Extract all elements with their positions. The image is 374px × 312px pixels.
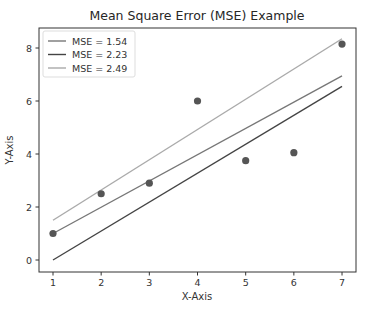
y-axis-ticks: 02468 xyxy=(26,43,39,266)
mse-chart: Mean Square Error (MSE) Example 1234567 … xyxy=(0,0,374,312)
data-point xyxy=(290,149,297,156)
legend-label: MSE = 2.49 xyxy=(72,63,127,74)
x-tick-label: 7 xyxy=(339,277,345,288)
y-tick-label: 8 xyxy=(26,43,32,54)
data-point xyxy=(242,157,249,164)
data-point xyxy=(194,97,201,104)
chart-title: Mean Square Error (MSE) Example xyxy=(89,8,304,23)
data-point xyxy=(98,190,105,197)
x-tick-label: 5 xyxy=(243,277,249,288)
x-tick-label: 6 xyxy=(291,277,297,288)
legend: MSE = 1.54MSE = 2.23MSE = 2.49 xyxy=(43,31,135,77)
x-axis-ticks: 1234567 xyxy=(50,272,345,288)
data-point xyxy=(49,230,56,237)
y-tick-label: 4 xyxy=(26,149,32,160)
data-point xyxy=(146,180,153,187)
data-point xyxy=(338,40,345,47)
x-tick-label: 3 xyxy=(146,277,152,288)
x-axis-label: X-Axis xyxy=(182,291,213,302)
y-tick-label: 2 xyxy=(26,202,32,213)
y-axis-label: Y-Axis xyxy=(4,135,15,165)
x-tick-label: 4 xyxy=(194,277,200,288)
y-tick-label: 0 xyxy=(26,255,32,266)
legend-label: MSE = 2.23 xyxy=(72,49,127,60)
y-tick-label: 6 xyxy=(26,96,32,107)
x-tick-label: 2 xyxy=(98,277,104,288)
legend-label: MSE = 1.54 xyxy=(72,36,127,47)
x-tick-label: 1 xyxy=(50,277,56,288)
